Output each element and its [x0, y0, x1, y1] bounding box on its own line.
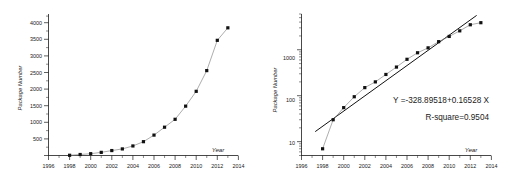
right-x-ticklabel-2006: 2006	[401, 163, 413, 169]
left-x-ticklabel-2014: 2014	[232, 163, 244, 169]
right-data-marker	[479, 21, 482, 24]
right-data-marker	[469, 23, 472, 26]
left-data-marker	[205, 69, 208, 72]
left-y-ticks	[44, 16, 49, 155]
left-y-ticklabel-500: 500	[33, 136, 42, 142]
right-y-ticklabel-100: 100	[286, 97, 295, 103]
right-x-ticklabel-2004: 2004	[380, 163, 392, 169]
left-y-ticklabel-4000: 4000	[30, 20, 42, 26]
left-y-ticklabel-1000: 1000	[30, 119, 42, 125]
right-y-axis-title: Package Number	[272, 67, 278, 113]
left-x-ticklabel-2000: 2000	[85, 163, 97, 169]
left-y-ticklabel-3000: 3000	[30, 53, 42, 59]
right-data-marker	[384, 73, 387, 76]
left-x-ticks	[49, 156, 239, 161]
right-data-marker	[458, 29, 461, 32]
left-data-marker	[142, 140, 145, 143]
left-data-marker	[163, 126, 166, 129]
left-x-ticklabel-2002: 2002	[106, 163, 118, 169]
right-x-ticklabel-2002: 2002	[359, 163, 371, 169]
right-y-ticks	[297, 14, 302, 156]
left-x-ticklabel-2006: 2006	[148, 163, 160, 169]
left-y-ticklabel-2500: 2500	[30, 70, 42, 76]
right-data-marker	[363, 86, 366, 89]
left-x-ticklabel-2008: 2008	[169, 163, 181, 169]
left-data-marker	[89, 152, 92, 155]
left-data-marker	[110, 149, 113, 152]
right-x-ticklabel-2008: 2008	[422, 163, 434, 169]
left-data-marker	[174, 118, 177, 121]
right-data-marker	[342, 106, 345, 109]
right-data-marker	[427, 46, 430, 49]
left-x-ticklabels: 1996 1998 2000 2002 2004 2006 2008 2010 …	[43, 163, 245, 169]
chart-panel-right: 10 100 1000 Package Number	[253, 0, 506, 184]
right-data-marker	[332, 118, 335, 121]
right-x-ticklabel-2000: 2000	[338, 163, 350, 169]
left-x-ticklabel-1996: 1996	[43, 163, 55, 169]
right-data-marker	[416, 51, 419, 54]
left-data-marker	[226, 26, 229, 29]
right-y-ticklabel-1000: 1000	[283, 55, 295, 61]
right-x-ticklabel-2010: 2010	[443, 163, 455, 169]
left-x-ticklabel-2004: 2004	[127, 163, 139, 169]
left-data-marker	[216, 39, 219, 42]
right-data-marker	[395, 65, 398, 68]
right-x-ticklabels: 1996 1998 2000 2002 2004 2006 2008 2010 …	[296, 163, 498, 169]
regression-equation-text: Y =-328.89518+0.16528 X	[393, 96, 489, 105]
left-data-marker	[184, 105, 187, 108]
chart-panel-left: 500 1000 1500 2000 2500 3000 3500 4000 P…	[0, 0, 253, 184]
left-data-series	[68, 26, 229, 157]
right-x-ticklabel-1998: 1998	[317, 163, 329, 169]
left-data-marker	[152, 134, 155, 137]
right-chart-svg: 10 100 1000 Package Number	[253, 0, 506, 184]
right-x-ticks	[302, 156, 492, 161]
right-x-ticklabel-2014: 2014	[485, 163, 497, 169]
left-x-ticklabel-2010: 2010	[190, 163, 202, 169]
right-data-marker	[374, 80, 377, 83]
left-x-axis-title: Year	[212, 146, 226, 153]
right-data-marker	[353, 95, 356, 98]
figure-container: 500 1000 1500 2000 2500 3000 3500 4000 P…	[0, 0, 506, 184]
left-data-marker	[68, 154, 71, 157]
right-y-ticklabels: 10 100 1000	[283, 55, 295, 146]
right-data-polyline	[323, 23, 481, 149]
left-y-ticklabel-3500: 3500	[30, 36, 42, 42]
left-data-marker	[100, 151, 103, 154]
left-data-marker	[79, 153, 82, 156]
left-y-ticklabel-2000: 2000	[30, 86, 42, 92]
right-data-marker	[448, 35, 451, 38]
right-data-marker	[405, 58, 408, 61]
left-y-ticklabels: 500 1000 1500 2000 2500 3000 3500 4000	[30, 20, 42, 142]
left-chart-svg: 500 1000 1500 2000 2500 3000 3500 4000 P…	[0, 0, 253, 184]
right-x-ticklabel-1996: 1996	[296, 163, 308, 169]
left-y-ticklabel-1500: 1500	[30, 103, 42, 109]
left-data-polyline	[70, 28, 228, 155]
right-x-axis-title: Year	[465, 146, 479, 153]
right-data-series	[321, 21, 482, 150]
right-y-ticklabel-10: 10	[289, 140, 295, 146]
left-data-marker	[131, 144, 134, 147]
left-x-ticklabel-2012: 2012	[211, 163, 223, 169]
right-x-ticklabel-2012: 2012	[464, 163, 476, 169]
left-x-ticklabel-1998: 1998	[64, 163, 76, 169]
left-y-axis-title: Package Number	[17, 65, 23, 111]
left-data-marker	[195, 90, 198, 93]
right-data-marker	[437, 40, 440, 43]
left-data-marker	[121, 147, 124, 150]
r-square-text: R-square=0.9504	[426, 113, 490, 122]
right-data-marker	[321, 147, 324, 150]
